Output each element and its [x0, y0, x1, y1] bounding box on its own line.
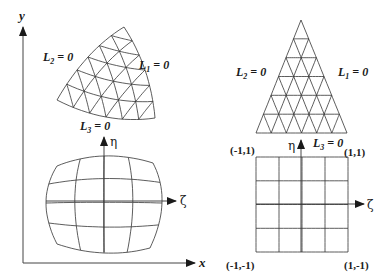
zeta-label: ζ: [367, 198, 374, 212]
corner-label-top-left: (-1,1): [230, 144, 255, 157]
parent-triangle-mesh: [256, 20, 347, 133]
corner-label-bottom-left: (-1,-1): [226, 259, 255, 272]
corner-label-bottom-right: (1,-1): [344, 259, 369, 272]
y-axis-label: y: [17, 8, 25, 23]
eta-label: η: [288, 139, 295, 153]
parent-triangle-labels: L2 = 0 L1 = 0 L3 = 0: [235, 65, 368, 152]
x-axis-label: x: [198, 255, 206, 270]
eta-label: η: [110, 135, 117, 149]
edge-label-l1: L1 = 0: [337, 65, 368, 81]
edge-label-l3: L3 = 0: [312, 136, 343, 152]
zeta-label: ζ: [180, 194, 187, 208]
edge-label-l2: L2 = 0: [235, 65, 266, 81]
corner-label-top-right: (1,1): [344, 146, 365, 159]
curved-quad-local-axes: η ζ: [46, 135, 187, 252]
curved-triangle-mesh: [57, 27, 155, 120]
edge-label-l3: L3 = 0: [79, 119, 110, 135]
isoparametric-mapping-diagram: y x L2 = 0 L1 = 0 L3 = 0 η ζ L2 = 0 L1 =…: [0, 0, 388, 280]
edge-label-l1: L1 = 0: [138, 58, 169, 74]
parent-square-mesh: [256, 157, 348, 252]
edge-label-l2: L2 = 0: [42, 50, 73, 66]
